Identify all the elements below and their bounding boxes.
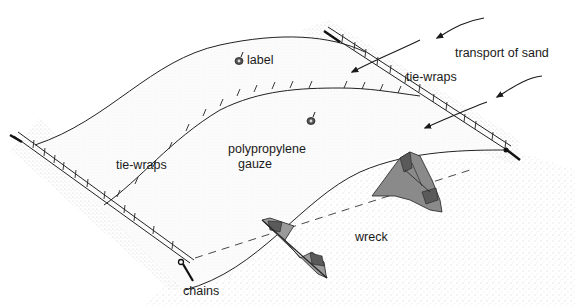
gauze-label-line1: polypropylene bbox=[228, 143, 306, 156]
gauze-label-line2: gauze bbox=[238, 158, 272, 171]
tie-wraps-label-right: tie-wraps bbox=[406, 71, 457, 84]
tie-wraps-label-left: tie-wraps bbox=[116, 159, 167, 172]
chains-label: chains bbox=[183, 285, 219, 298]
wreck-label: wreck bbox=[355, 231, 388, 244]
left-top-chain-icon bbox=[10, 135, 22, 142]
arrow-icon bbox=[437, 18, 484, 38]
label-tag-text: label bbox=[247, 54, 273, 67]
transport-of-sand-label: transport of sand bbox=[455, 47, 549, 60]
arrow-icon bbox=[497, 76, 542, 97]
